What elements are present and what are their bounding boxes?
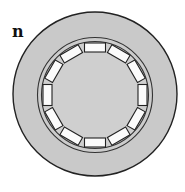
block: [138, 85, 147, 106]
annulus-inner-wall: [42, 42, 149, 149]
block: [85, 43, 106, 52]
ring-diagram: [0, 0, 185, 192]
block: [43, 85, 52, 106]
block: [85, 138, 106, 147]
